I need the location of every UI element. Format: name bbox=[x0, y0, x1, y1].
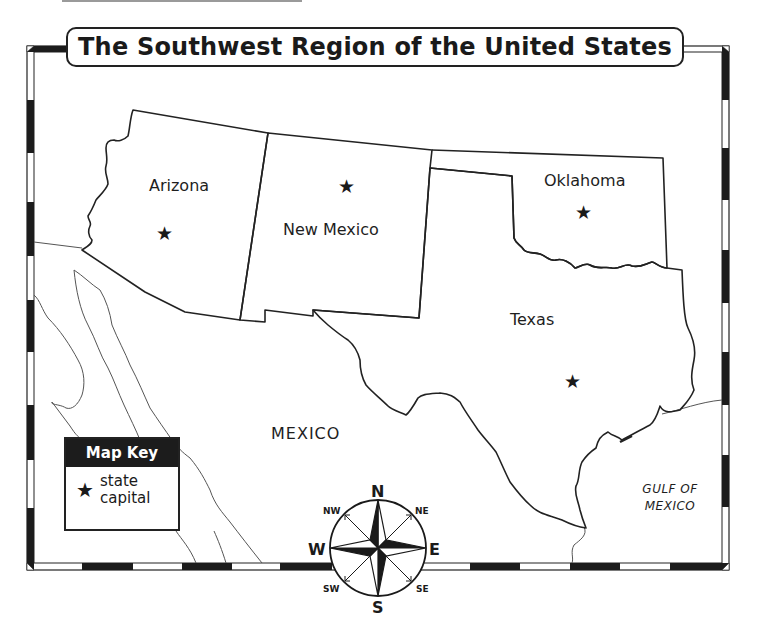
state-label-oklahoma: Oklahoma bbox=[544, 171, 625, 190]
compass-label-se: SE bbox=[416, 584, 429, 594]
star-icon-oklahoma-capital: ★ bbox=[575, 203, 592, 222]
compass-label-e: E bbox=[429, 540, 440, 559]
country-label-mexico: MEXICO bbox=[271, 424, 340, 443]
water-label-line1: GULF OF bbox=[634, 481, 706, 498]
compass-rose bbox=[330, 500, 426, 596]
compass-label-sw: SW bbox=[323, 584, 339, 594]
map-key-line1: state bbox=[100, 473, 150, 490]
map-canvas bbox=[0, 0, 757, 635]
map-title-box: The Southwest Region of the United State… bbox=[66, 27, 684, 67]
map-key-line2: capital bbox=[100, 490, 150, 507]
state-label-arizona: Arizona bbox=[149, 176, 209, 195]
oklahoma-outline bbox=[430, 150, 667, 268]
map-title: The Southwest Region of the United State… bbox=[78, 33, 672, 61]
map-key-row: ★ state capital bbox=[66, 467, 178, 507]
arizona-outline bbox=[82, 110, 268, 320]
map-key-header: Map Key bbox=[66, 439, 178, 467]
water-label-gulf-of-mexico: GULF OF MEXICO bbox=[634, 481, 706, 515]
state-label-new-mexico: New Mexico bbox=[283, 220, 379, 239]
star-icon-arizona-capital: ★ bbox=[156, 224, 173, 243]
compass-label-w: W bbox=[308, 540, 326, 559]
compass-label-s: S bbox=[372, 598, 384, 617]
star-icon-texas-capital: ★ bbox=[564, 372, 581, 391]
map-key: Map Key ★ state capital bbox=[64, 437, 180, 531]
compass-label-n: N bbox=[371, 482, 384, 501]
compass-label-ne: NE bbox=[415, 506, 429, 516]
star-icon-new-mexico-capital: ★ bbox=[338, 177, 355, 196]
star-icon: ★ bbox=[76, 478, 100, 502]
state-label-texas: Texas bbox=[510, 310, 554, 329]
map-key-description: state capital bbox=[100, 473, 150, 507]
water-label-line2: MEXICO bbox=[634, 498, 706, 515]
compass-label-nw: NW bbox=[323, 506, 340, 516]
